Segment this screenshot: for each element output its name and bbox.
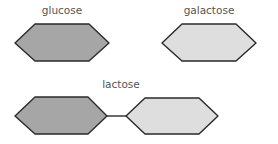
- sugar-diagram: [0, 0, 278, 144]
- glucose-hexagon: [15, 24, 109, 61]
- lactose-galactose-hexagon: [126, 98, 218, 134]
- lactose-glucose-hexagon: [15, 97, 107, 134]
- galactose-hexagon: [162, 24, 256, 61]
